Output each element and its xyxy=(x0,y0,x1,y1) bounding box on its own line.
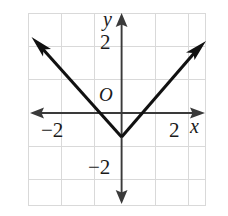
x-tick-label-2: 2 xyxy=(169,120,180,141)
coordinate-plane-svg xyxy=(0,0,228,216)
graph-figure: y x O 2 −2 −2 2 xyxy=(0,0,228,216)
y-axis-label: y xyxy=(103,9,112,29)
grid-lines xyxy=(28,13,206,206)
x-axis-label: x xyxy=(190,116,199,136)
curve-right-arm xyxy=(122,51,196,137)
origin-label: O xyxy=(99,85,113,104)
y-tick-label-2: 2 xyxy=(100,32,111,53)
y-tick-label-negative-2: −2 xyxy=(88,157,110,178)
axes xyxy=(30,13,205,204)
x-tick-label-negative-2: −2 xyxy=(41,120,63,141)
